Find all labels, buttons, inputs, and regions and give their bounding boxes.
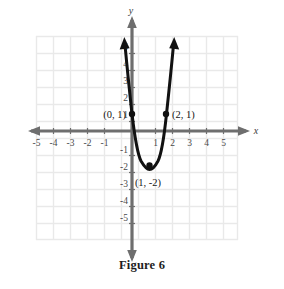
x-axis-left-arrow-icon — [28, 126, 40, 136]
point-label-vertex: (1, -2) — [135, 177, 162, 189]
x-tick-label: 2 — [170, 138, 175, 148]
point-label-right: (2, 1) — [172, 109, 195, 121]
x-tick-label: 1 — [153, 138, 158, 148]
x-tick-label: 3 — [187, 138, 192, 148]
y-tick-label: -4 — [120, 196, 128, 206]
y-axis-top-arrow-icon — [127, 16, 137, 28]
x-tick-label: -2 — [84, 138, 92, 148]
coordinate-plane-graph: -5 -4 -3 -2 -1 1 2 3 4 5 1 2 3 4 5 -1 -2… — [0, 0, 284, 289]
x-tick-label: -4 — [50, 138, 58, 148]
y-axis-label: y — [128, 5, 134, 16]
y-tick-label: -2 — [120, 162, 128, 172]
y-tick-label: 2 — [123, 93, 128, 103]
x-tick-labels: -5 -4 -3 -2 -1 1 2 3 4 5 — [33, 138, 227, 148]
point-marker-2-1 — [163, 111, 169, 117]
point-label-left: (0, 1) — [103, 109, 126, 121]
figure-caption: Figure 6 — [0, 258, 284, 273]
x-tick-label: -3 — [67, 138, 75, 148]
curve-right-arrow-icon — [169, 37, 179, 50]
y-tick-label: -1 — [120, 145, 128, 155]
x-tick-label: -5 — [33, 138, 41, 148]
point-marker-vertex — [146, 162, 152, 168]
x-axis-label: x — [253, 125, 259, 136]
x-tick-label: -1 — [101, 138, 109, 148]
parabola-curve — [120, 37, 180, 170]
x-tick-label: 4 — [204, 138, 209, 148]
x-axis-right-arrow-icon — [238, 126, 250, 136]
x-tick-label: 5 — [221, 138, 226, 148]
figure-container: -5 -4 -3 -2 -1 1 2 3 4 5 1 2 3 4 5 -1 -2… — [0, 0, 284, 289]
point-marker-0-1 — [129, 111, 135, 117]
y-tick-label: -5 — [120, 213, 128, 223]
y-tick-label: -3 — [120, 179, 128, 189]
